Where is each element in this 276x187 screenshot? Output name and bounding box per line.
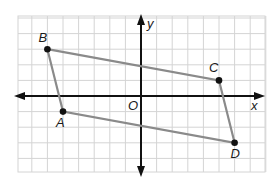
coordinate-grid: BCDA x y O	[0, 0, 276, 187]
x-axis-arrow-left-icon	[14, 92, 25, 100]
point-b-label: B	[38, 30, 47, 45]
x-axis-label: x	[250, 98, 258, 113]
point-b-dot	[44, 46, 51, 53]
origin-label: O	[128, 98, 138, 113]
coordinate-figure: BCDA x y O	[0, 0, 276, 187]
point-a-label: A	[55, 115, 65, 130]
point-c-label: C	[209, 60, 219, 75]
point-c-dot	[216, 77, 223, 84]
point-d-label: D	[231, 146, 240, 161]
axes	[14, 14, 265, 177]
